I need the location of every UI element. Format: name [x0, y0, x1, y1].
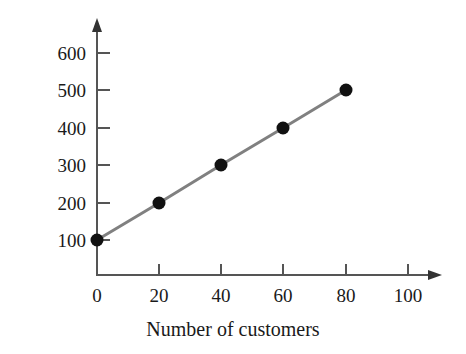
- x-axis: [96, 270, 442, 280]
- y-tick-label-600: 600: [42, 44, 86, 63]
- x-tick-label-60: 60: [274, 286, 293, 305]
- data-point: [340, 84, 353, 97]
- y-tick-label-100: 100: [42, 231, 86, 250]
- data-point: [91, 234, 104, 247]
- income-vs-customers-chart: 600 500 400 300 200 100 0 20 40 60 80 10…: [0, 0, 466, 354]
- y-tick-label-400: 400: [42, 119, 86, 138]
- x-axis-ticks: [97, 264, 408, 275]
- y-tick-label-200: 200: [42, 194, 86, 213]
- data-point: [153, 197, 166, 210]
- data-point: [215, 159, 228, 172]
- data-point: [277, 122, 290, 135]
- x-tick-label-0: 0: [92, 286, 102, 305]
- x-axis-title: Number of customers: [0, 318, 466, 341]
- y-tick-label-500: 500: [42, 81, 86, 100]
- x-tick-label-40: 40: [212, 286, 231, 305]
- y-tick-label-300: 300: [42, 156, 86, 175]
- y-axis-ticks: [97, 53, 110, 240]
- x-tick-label-100: 100: [394, 286, 423, 305]
- x-tick-label-80: 80: [337, 286, 356, 305]
- x-tick-label-20: 20: [150, 286, 169, 305]
